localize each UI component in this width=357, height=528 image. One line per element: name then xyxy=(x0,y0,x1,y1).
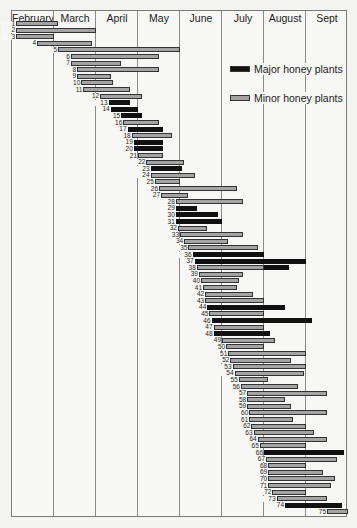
minor-honey-plant-bar xyxy=(155,179,180,184)
month-gridline xyxy=(53,11,54,516)
minor-honey-plant-bar xyxy=(327,509,348,514)
minor-honey-plant-bar xyxy=(58,47,180,52)
minor-honey-plant-bar xyxy=(230,358,291,363)
major-honey-plant-bar xyxy=(109,100,130,105)
minor-honey-plant-bar xyxy=(159,186,237,191)
minor-honey-plant-bar xyxy=(268,483,331,488)
month-header-july: July xyxy=(222,12,264,24)
bar-number-label: 74 xyxy=(270,502,284,508)
bar-number-label: 70 xyxy=(253,476,267,482)
minor-honey-plant-bar xyxy=(180,232,243,237)
minor-honey-plant-bar xyxy=(201,278,239,283)
legend-minor: Minor honey plants xyxy=(230,92,343,104)
bar-number-label: 15 xyxy=(106,113,120,119)
minor-honey-plant-bar xyxy=(199,272,243,277)
minor-honey-plant-bar xyxy=(266,457,337,462)
minor-honey-plant-bar xyxy=(123,120,159,125)
minor-honey-plant-bar xyxy=(81,80,113,85)
minor-honey-plant-bar xyxy=(268,476,335,481)
minor-honey-plant-bar xyxy=(235,371,304,376)
bar-number-label: 20 xyxy=(119,146,133,152)
bar-number-label: 56 xyxy=(226,384,240,390)
major-honey-plant-bar xyxy=(264,450,344,455)
bar-number-label: 45 xyxy=(194,311,208,317)
minor-honey-plant-bar xyxy=(77,74,111,79)
minor-honey-plant-bar xyxy=(16,28,96,33)
major-honey-plant-bar xyxy=(207,305,285,310)
major-honey-plant-bar xyxy=(285,503,342,508)
bar-number-label: 75 xyxy=(312,509,326,515)
minor-honey-plant-bar xyxy=(151,173,195,178)
bar-number-label: 7 xyxy=(56,60,70,66)
minor-honey-plant-bar xyxy=(161,193,188,198)
bar-number-label: 11 xyxy=(68,87,82,93)
bar-number-label: 65 xyxy=(245,443,259,449)
minor-honey-plant-bar xyxy=(247,397,285,402)
minor-honey-plant-bar xyxy=(83,87,129,92)
month-header-sept: Sept xyxy=(306,12,348,24)
minor-honey-plant-bar xyxy=(197,265,264,270)
minor-honey-plant-bar xyxy=(71,54,159,59)
month-header-august: August xyxy=(264,12,306,24)
minor-honey-plant-bar xyxy=(209,311,264,316)
minor-honey-plant-bar xyxy=(16,21,58,26)
bar-number-label: 27 xyxy=(146,192,160,198)
legend-swatch-major xyxy=(230,66,250,72)
bar-number-label: 3 xyxy=(1,34,15,40)
major-honey-plant-bar xyxy=(212,318,313,323)
minor-honey-plant-bar xyxy=(249,410,327,415)
major-honey-plant-bar xyxy=(176,219,222,224)
bar-number-label: 21 xyxy=(123,153,137,159)
bar-number-label: 50 xyxy=(211,344,225,350)
minor-honey-plant-bar xyxy=(277,496,327,501)
major-honey-plant-bar xyxy=(151,166,183,171)
minor-honey-plant-bar xyxy=(251,424,306,429)
bar-number-label: 10 xyxy=(66,80,80,86)
major-honey-plant-bar xyxy=(195,259,306,264)
major-honey-plant-bar xyxy=(193,252,264,257)
minor-honey-plant-bar xyxy=(37,41,92,46)
bar-number-label: 35 xyxy=(173,245,187,251)
minor-honey-plant-bar xyxy=(77,67,159,72)
minor-honey-plant-bar xyxy=(71,61,121,66)
minor-honey-plant-bar xyxy=(241,384,298,389)
minor-honey-plant-bar xyxy=(222,338,275,343)
minor-honey-plant-bar xyxy=(184,239,228,244)
minor-honey-plant-bar xyxy=(260,443,306,448)
minor-honey-plant-bar xyxy=(268,463,306,468)
minor-honey-plant-bar xyxy=(176,199,243,204)
minor-honey-plant-bar xyxy=(239,377,268,382)
minor-honey-plant-bar xyxy=(132,133,172,138)
minor-honey-plant-bar xyxy=(178,226,207,231)
major-honey-plant-bar xyxy=(121,113,142,118)
legend-label: Minor honey plants xyxy=(254,92,343,104)
minor-honey-plant-bar xyxy=(247,404,291,409)
minor-honey-plant-bar xyxy=(233,364,307,369)
bar-number-label: 55 xyxy=(224,377,238,383)
minor-honey-plant-bar xyxy=(228,351,306,356)
month-header-june: June xyxy=(180,12,222,24)
major-honey-plant-bar xyxy=(134,146,163,151)
bar-number-label: 4 xyxy=(22,40,36,46)
major-honey-plant-bar xyxy=(176,212,218,217)
minor-honey-plant-bar xyxy=(268,470,323,475)
month-header-may: May xyxy=(138,12,180,24)
bar-number-label: 48 xyxy=(199,331,213,337)
legend-label: Major honey plants xyxy=(254,63,343,75)
bar-number-label: 12 xyxy=(85,93,99,99)
minor-honey-plant-bar xyxy=(249,417,293,422)
bar-number-label: 40 xyxy=(186,278,200,284)
major-honey-plant-bar-extension xyxy=(264,265,289,270)
major-honey-plant-bar xyxy=(214,331,271,336)
minor-honey-plant-bar xyxy=(258,437,327,442)
month-header-april: April xyxy=(96,12,138,24)
month-gridline xyxy=(137,11,138,516)
bar-number-label: 5 xyxy=(43,47,57,53)
bar-number-label: 25 xyxy=(140,179,154,185)
minor-honey-plant-bar xyxy=(203,285,237,290)
legend-swatch-minor xyxy=(230,95,250,101)
bar-number-label: 14 xyxy=(96,106,110,112)
minor-honey-plant-bar xyxy=(247,391,327,396)
major-honey-plant-bar xyxy=(176,206,197,211)
month-header-march: March xyxy=(54,12,96,24)
